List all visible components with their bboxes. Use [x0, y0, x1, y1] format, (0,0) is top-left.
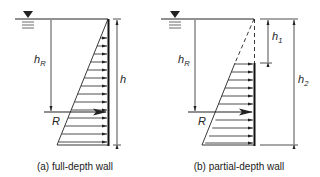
R-label: R [198, 115, 206, 127]
panel-partial-depth-wall: hR R h1 h2 (b) partial-depth wall [161, 11, 309, 172]
h2-label: h2 [298, 73, 309, 88]
pressure-arrows [205, 64, 253, 143]
hR-label: hR [178, 53, 190, 68]
pressure-arrows [59, 38, 107, 142]
caption-b: (b) partial-depth wall [194, 161, 285, 172]
R-label: R [52, 115, 60, 127]
panel-full-depth-wall: hR R h (a) full-depth wall [15, 11, 126, 172]
h-label: h [120, 73, 126, 85]
hydrostatic-wall-diagram: hR R h (a) full-depth wall [0, 0, 320, 177]
pressure-hypotenuse-dashed [235, 19, 254, 63]
hR-label: hR [34, 53, 46, 68]
caption-a: (a) full-depth wall [37, 161, 113, 172]
h1-label: h1 [272, 30, 282, 45]
